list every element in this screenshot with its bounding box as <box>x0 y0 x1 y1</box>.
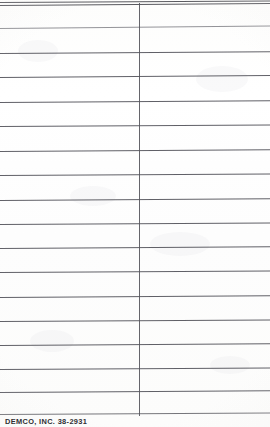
demco-imprint-text: DEMCO, INC. 38-2931 <box>5 417 87 426</box>
ruled-line <box>0 174 270 176</box>
paper-texture <box>0 0 270 427</box>
scan-blotch <box>150 232 210 256</box>
ruled-line <box>0 223 270 225</box>
scan-blotch <box>210 356 250 374</box>
ruled-line <box>0 271 270 273</box>
ruled-line <box>0 413 270 415</box>
ruled-line <box>0 343 270 346</box>
ruled-line <box>0 125 270 127</box>
ruled-line <box>0 368 270 370</box>
ruled-line <box>0 198 270 201</box>
ruled-line <box>0 246 270 249</box>
scan-blotch <box>18 40 58 62</box>
scan-blotch <box>70 186 116 206</box>
ruled-line <box>0 149 270 152</box>
ruled-line <box>0 3 270 6</box>
ruled-line <box>0 75 270 78</box>
ruled-line <box>0 320 270 322</box>
ruled-line <box>0 295 270 298</box>
ruled-line <box>0 390 270 393</box>
paper-vignette <box>0 0 270 427</box>
ruled-line <box>0 51 270 54</box>
ruled-line <box>0 100 270 103</box>
ruled-line <box>0 25 270 29</box>
scan-blotch <box>30 330 74 352</box>
date-due-slip-page: DEMCO, INC. 38-2931 <box>0 0 270 427</box>
vertical-column-divider <box>139 3 140 416</box>
scan-blotch <box>196 66 248 92</box>
